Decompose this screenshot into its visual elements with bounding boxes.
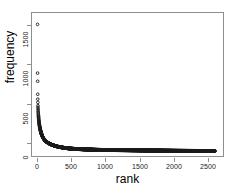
x-tick-label-2000: 2000 <box>159 163 189 170</box>
x-tick-mark-2000 <box>174 158 175 162</box>
chart-container: 1500 1000 500 0 0 500 1000 1500 2000 250… <box>0 0 236 193</box>
plot-panel <box>31 12 224 157</box>
y-tick-label-1500: 1500 <box>22 26 29 54</box>
x-tick-mark-1000 <box>105 158 106 162</box>
y-tick-label-1000: 1000 <box>22 65 29 93</box>
y-axis-title: frequency <box>3 21 17 93</box>
x-axis-title: rank <box>31 172 224 186</box>
x-tick-mark-2500 <box>208 158 209 162</box>
x-tick-label-500: 500 <box>56 163 86 170</box>
x-tick-mark-0 <box>37 158 38 162</box>
x-tick-label-2500: 2500 <box>193 163 223 170</box>
x-tick-label-1000: 1000 <box>90 163 120 170</box>
x-tick-label-0: 0 <box>22 163 52 170</box>
scatter-series <box>32 13 223 156</box>
y-tick-label-500: 500 <box>22 105 29 133</box>
x-tick-mark-1500 <box>140 158 141 162</box>
x-tick-label-1500: 1500 <box>125 163 155 170</box>
x-tick-mark-500 <box>71 158 72 162</box>
